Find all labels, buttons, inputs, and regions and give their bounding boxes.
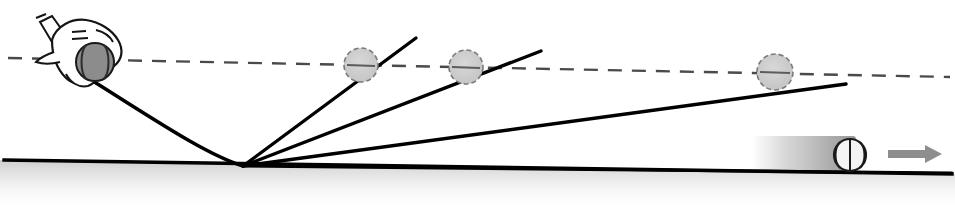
knuckle-mark-1 bbox=[72, 31, 86, 32]
ghost-ball-1 bbox=[344, 48, 378, 82]
illustration-canvas bbox=[0, 0, 955, 210]
rolling-ball bbox=[834, 139, 866, 171]
rebound-path-medium bbox=[243, 51, 541, 166]
direction-arrow-right bbox=[888, 145, 942, 163]
cuff-tick bbox=[36, 14, 46, 18]
ghost-ball-3 bbox=[757, 54, 793, 90]
knuckle-mark-2 bbox=[72, 38, 88, 39]
ball-bounce-illustration bbox=[0, 0, 955, 210]
incoming-trajectory bbox=[88, 78, 243, 166]
ghost-ball-2 bbox=[449, 50, 483, 84]
held-ball bbox=[76, 43, 114, 81]
